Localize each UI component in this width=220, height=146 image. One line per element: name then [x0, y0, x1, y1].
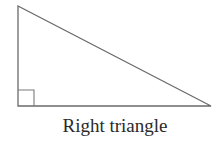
- triangle: [18, 6, 211, 106]
- right-angle-marker: [18, 90, 34, 106]
- figure-caption: Right triangle: [0, 115, 220, 137]
